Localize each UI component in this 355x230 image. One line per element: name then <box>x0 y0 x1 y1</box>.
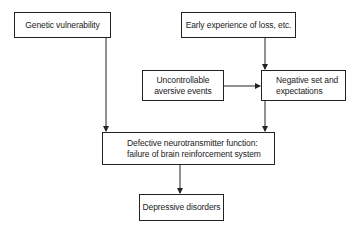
node-negative-set: Negative set and expectations <box>261 70 346 101</box>
node-label: Early experience of loss, etc. <box>186 20 292 31</box>
node-label-line1: Negative set and <box>276 75 338 86</box>
node-uncontrollable-events: Uncontrollable aversive events <box>142 70 224 101</box>
node-genetic-vulnerability: Genetic vulnerability <box>14 12 111 38</box>
node-label: Genetic vulnerability <box>25 20 99 31</box>
node-early-experience: Early experience of loss, etc. <box>181 12 296 38</box>
node-label: Depressive disorders <box>143 202 221 213</box>
node-label-line1: Defective neurotransmitter function: <box>127 138 258 149</box>
node-label-line2: aversive events <box>154 86 212 97</box>
node-label-line2: expectations <box>276 86 323 97</box>
node-label-line2: failure of brain reinforcement system <box>127 149 261 160</box>
node-defective-neurotransmitter: Defective neurotransmitter function: fai… <box>102 132 275 165</box>
node-label-line1: Uncontrollable <box>157 75 210 86</box>
node-depressive-disorders: Depressive disorders <box>139 194 224 221</box>
